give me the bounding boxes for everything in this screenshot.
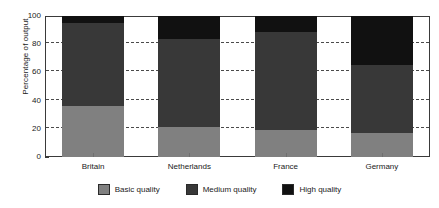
- legend-item-basic[interactable]: Basic quality: [98, 184, 160, 195]
- gridline-60: [46, 70, 429, 71]
- legend-swatch-high: [282, 184, 294, 195]
- x-tick-label-germany: Germany: [332, 162, 432, 171]
- y-tick-label-40: 40: [1, 97, 41, 105]
- gridline-20: [46, 127, 429, 128]
- legend-swatch-medium: [186, 184, 198, 195]
- legend-swatch-basic: [98, 184, 110, 195]
- y-tick-mark-0: [45, 157, 49, 158]
- x-tick-label-netherlands: Netherlands: [139, 162, 239, 171]
- y-tick-label-80: 80: [1, 40, 41, 48]
- gridline-40: [46, 99, 429, 100]
- y-tick-label-0: 0: [1, 153, 41, 161]
- legend-label-medium: Medium quality: [203, 185, 257, 194]
- legend-item-high[interactable]: High quality: [282, 184, 341, 195]
- x-tick-label-britain: Britain: [43, 162, 143, 171]
- y-tick-label-100: 100: [1, 12, 41, 20]
- chart-legend: Basic qualityMedium qualityHigh quality: [0, 184, 439, 195]
- plot-area: [45, 16, 430, 157]
- legend-label-high: High quality: [299, 185, 341, 194]
- gridline-80: [46, 42, 429, 43]
- y-tick-label-60: 60: [1, 68, 41, 76]
- x-tick-label-france: France: [236, 162, 336, 171]
- y-tick-label-20: 20: [1, 125, 41, 133]
- chart-figure: Percentage of output 020406080100 Britai…: [0, 0, 439, 208]
- legend-item-medium[interactable]: Medium quality: [186, 184, 257, 195]
- legend-label-basic: Basic quality: [115, 185, 160, 194]
